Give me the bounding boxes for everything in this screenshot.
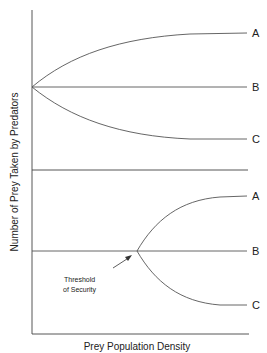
top-label-c: C: [252, 133, 260, 145]
y-axis-label: Number of Prey Taken by Predators: [9, 93, 20, 252]
annotation-line1: Threshold: [64, 276, 95, 283]
bottom-label-a: A: [252, 190, 260, 202]
figure: A B C A B C Threshold of Security Prey P…: [0, 0, 267, 353]
bottom-label-c: C: [252, 299, 260, 311]
annotation-line2: of Security: [63, 286, 97, 294]
bottom-curve-a: [137, 196, 247, 251]
top-label-a: A: [252, 27, 260, 39]
bottom-label-b: B: [252, 245, 259, 257]
bottom-curve-c: [137, 251, 247, 305]
top-curve-c: [32, 87, 247, 139]
arrowhead-icon: [125, 255, 132, 261]
x-axis-label: Prey Population Density: [84, 341, 191, 352]
top-label-b: B: [252, 81, 259, 93]
top-curve-a: [32, 33, 247, 87]
